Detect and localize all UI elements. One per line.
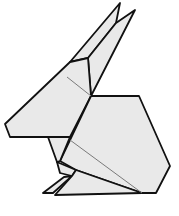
origami-rabbit-drawing (0, 0, 179, 216)
origami-rabbit-figure: Origami rabbit line drawing (0, 0, 179, 216)
